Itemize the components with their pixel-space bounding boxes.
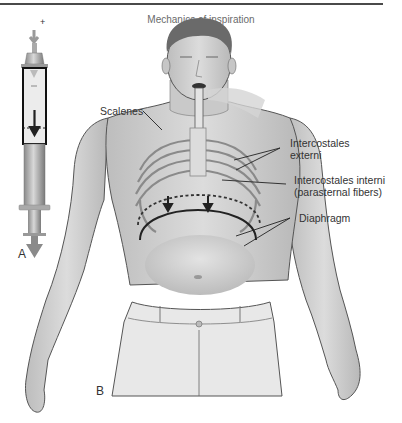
label-intercostales-interni-line2: (parasternal fibers) bbox=[294, 186, 382, 198]
syringe bbox=[19, 30, 50, 258]
panel-label-b: B bbox=[96, 384, 104, 398]
label-diaphragm: Diaphragm bbox=[299, 212, 350, 224]
panel-label-a: A bbox=[18, 247, 26, 261]
abdomen bbox=[145, 235, 255, 295]
navel bbox=[194, 275, 202, 279]
label-intercostales-externi-line2: externi bbox=[290, 149, 322, 161]
label-intercostales-interni-line1: Intercostales interni bbox=[294, 174, 385, 186]
syringe-plus-sign: + bbox=[40, 17, 45, 27]
pants-button bbox=[196, 321, 202, 327]
label-intercostales-externi-line1: Intercostales bbox=[290, 137, 350, 149]
label-scalenes: Scalenes bbox=[100, 105, 143, 117]
sternum bbox=[190, 128, 206, 176]
pants bbox=[112, 302, 282, 396]
air-inflow-arrow-icon bbox=[30, 30, 38, 42]
right-ear bbox=[228, 58, 236, 74]
left-ear bbox=[162, 58, 170, 74]
pull-down-arrow-icon bbox=[26, 236, 43, 258]
